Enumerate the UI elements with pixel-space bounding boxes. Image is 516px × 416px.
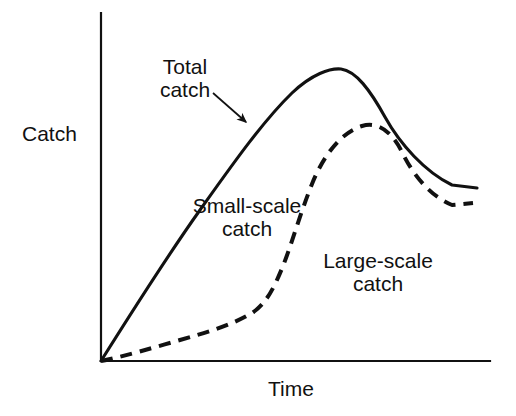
annotation-total-catch: Total catch xyxy=(150,55,220,101)
figure-container: Catch Time Total catch Small-scale catch… xyxy=(0,0,516,416)
x-axis-label: Time xyxy=(268,377,314,401)
annotation-large-scale-catch: Large-scale catch xyxy=(318,249,438,295)
y-axis-label: Catch xyxy=(22,122,77,146)
annotation-small-scale-catch: Small-scale catch xyxy=(188,194,306,240)
